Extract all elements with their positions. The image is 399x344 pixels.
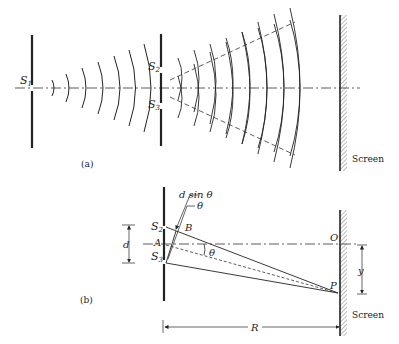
double-slit-diagram: S1 S2 S3 Screen (a)	[0, 0, 399, 344]
label-a: A	[153, 237, 161, 248]
theta-arc	[204, 244, 205, 255]
label-y: y	[357, 265, 364, 276]
label-s2-a: S2	[148, 60, 161, 74]
wavefronts-s2	[178, 20, 300, 168]
label-p: P	[329, 280, 337, 291]
ray-center-p	[166, 245, 338, 293]
label-d: d	[123, 239, 129, 250]
screen-a	[340, 15, 347, 171]
label-s2-b: S2	[151, 220, 164, 234]
caption-b: (b)	[80, 295, 93, 305]
label-theta-top: θ	[197, 200, 203, 211]
label-screen-b: Screen	[352, 310, 384, 320]
label-r: R	[250, 322, 259, 333]
caption-a: (a)	[81, 159, 93, 169]
label-screen-a: Screen	[352, 154, 384, 164]
label-o: O	[330, 232, 338, 243]
label-d-sin-theta: d sin θ	[179, 189, 213, 200]
figure-b: d sin θ θ S2 B A S3 θ d O P y R Screen (…	[80, 187, 384, 336]
label-s3-a: S3	[148, 98, 161, 112]
label-theta-angle: θ	[209, 247, 215, 258]
label-b: B	[184, 222, 192, 233]
perpendicular-s3-b	[166, 231, 176, 263]
label-s1: S1	[20, 74, 32, 88]
ray-s2-p	[166, 227, 338, 293]
screen-b	[340, 210, 347, 336]
figure-a: S1 S2 S3 Screen (a)	[15, 8, 384, 171]
wavefronts-s3	[178, 8, 300, 156]
ray-s3-p	[166, 263, 338, 293]
label-s3-b: S3	[151, 250, 164, 264]
